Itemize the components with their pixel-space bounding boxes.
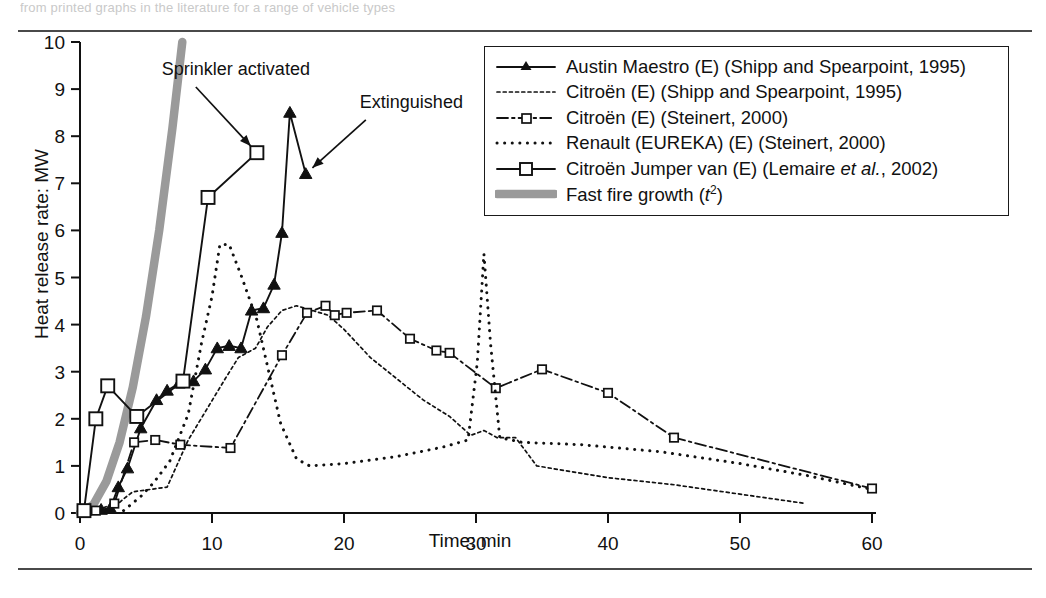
marker-triangle xyxy=(268,278,280,289)
marker-triangle xyxy=(276,227,288,238)
y-tick-label-5: 5 xyxy=(54,268,65,289)
series-line xyxy=(124,245,872,511)
series-line xyxy=(110,306,806,511)
marker-square-small xyxy=(130,438,138,446)
legend-swatch-icon xyxy=(495,81,557,103)
marker-square-small xyxy=(432,346,440,354)
y-tick-label-9: 9 xyxy=(54,79,65,100)
legend-item-citroen-shipp: Citroën (E) (Shipp and Spearpoint, 1995) xyxy=(495,80,998,106)
marker-square-small xyxy=(278,351,286,359)
marker-square-small xyxy=(604,389,612,397)
marker-square xyxy=(202,191,215,204)
legend-swatch-renault-eureka xyxy=(495,132,557,154)
legend-item-citroen-jumper-van: Citroën Jumper van (E) (Lemaire et al., … xyxy=(495,156,998,182)
annotation-extinguished: Extinguished xyxy=(312,92,462,168)
legend-marker-square-small xyxy=(522,114,531,123)
legend-marker-triangle xyxy=(521,61,532,70)
x-axis-label: Time: min xyxy=(0,530,940,552)
legend-label-citroen-shipp: Citroën (E) (Shipp and Spearpoint, 1995) xyxy=(566,83,902,102)
annotation-label: Extinguished xyxy=(360,92,463,112)
legend-swatch-citroen-jumper-van xyxy=(495,158,557,180)
legend-swatch-icon xyxy=(495,183,557,205)
legend-swatch-citroen-steinert xyxy=(495,107,557,129)
legend-swatch-citroen-shipp xyxy=(495,81,557,103)
legend-label-citroen-steinert: Citroën (E) (Steinert, 2000) xyxy=(566,109,788,128)
marker-square-small xyxy=(226,444,234,452)
annotation-leader xyxy=(196,87,251,146)
marker-triangle xyxy=(300,168,312,179)
legend-item-citroen-steinert: Citroën (E) (Steinert, 2000) xyxy=(495,105,998,131)
series-line xyxy=(84,153,257,511)
legend-swatch-icon xyxy=(495,132,557,154)
marker-square-small xyxy=(151,436,159,444)
y-tick-label-8: 8 xyxy=(54,126,65,147)
marker-square-small xyxy=(303,309,311,317)
legend-swatch-icon xyxy=(495,56,557,78)
legend-label-citroen-jumper-van: Citroën Jumper van (E) (Lemaire et al., … xyxy=(566,160,938,179)
y-tick-label-2: 2 xyxy=(54,409,65,430)
legend-swatch-fast-fire-growth xyxy=(495,183,557,205)
marker-square xyxy=(130,410,143,423)
y-tick-label-7: 7 xyxy=(54,173,65,194)
legend-item-renault-eureka: Renault (EUREKA) (E) (Steinert, 2000) xyxy=(495,131,998,157)
y-tick-label-1: 1 xyxy=(54,456,65,477)
marker-triangle xyxy=(257,302,269,313)
legend-label-fast-fire-growth: Fast fire growth (t2) xyxy=(566,184,723,205)
y-tick-label-0: 0 xyxy=(54,503,65,524)
marker-square-small xyxy=(670,433,678,441)
series-coarse-dotted xyxy=(124,245,872,511)
y-axis-label: Heat release rate: MW xyxy=(31,114,53,374)
marker-square xyxy=(89,412,102,425)
marker-square xyxy=(176,375,189,388)
marker-triangle xyxy=(223,340,235,351)
legend-swatch-icon xyxy=(495,107,557,129)
marker-square-small xyxy=(331,311,339,319)
marker-square-small xyxy=(321,302,329,310)
series-dash-dot-square xyxy=(92,302,877,515)
legend-label-austin-maestro: Austin Maestro (E) (Shipp and Spearpoint… xyxy=(566,58,966,77)
marker-square-small xyxy=(868,484,876,492)
legend-swatch-icon xyxy=(495,158,557,180)
marker-square-small xyxy=(406,335,414,343)
legend-swatch-austin-maestro xyxy=(495,56,557,78)
bottom-rule xyxy=(18,568,1032,570)
legend-item-fast-fire-growth: Fast fire growth (t2) xyxy=(495,182,998,208)
y-tick-label-4: 4 xyxy=(54,315,65,336)
marker-square-small xyxy=(445,349,453,357)
y-tick-label-3: 3 xyxy=(54,362,65,383)
marker-square-small xyxy=(342,309,350,317)
series-fine-dashed xyxy=(110,306,806,511)
marker-square-small xyxy=(538,365,546,373)
marker-triangle xyxy=(284,106,296,117)
legend-item-austin-maestro: Austin Maestro (E) (Shipp and Spearpoint… xyxy=(495,54,998,80)
marker-square-small xyxy=(176,441,184,449)
figure-page: from printed graphs in the literature fo… xyxy=(0,0,1046,598)
y-tick-label-6: 6 xyxy=(54,220,65,241)
top-rule xyxy=(18,30,1032,32)
marker-square-small xyxy=(92,506,100,514)
marker-square-small xyxy=(373,306,381,314)
annotation-label: Sprinkler activated xyxy=(162,59,310,79)
marker-triangle xyxy=(199,363,211,374)
marker-square xyxy=(101,379,114,392)
legend-label-renault-eureka: Renault (EUREKA) (E) (Steinert, 2000) xyxy=(566,134,886,153)
legend-marker-square xyxy=(520,163,532,175)
marker-triangle xyxy=(112,481,124,492)
cropped-header-text: from printed graphs in the literature fo… xyxy=(20,0,720,16)
marker-square xyxy=(77,504,90,517)
y-tick-label-10: 10 xyxy=(44,33,65,53)
marker-square xyxy=(250,146,263,159)
series-line xyxy=(96,306,872,511)
marker-triangle xyxy=(121,462,133,473)
marker-square-small xyxy=(110,499,118,507)
chart-figure: 0123456789100102030405060Sprinkler activ… xyxy=(0,33,1046,563)
chart-legend: Austin Maestro (E) (Shipp and Spearpoint… xyxy=(484,46,1009,216)
